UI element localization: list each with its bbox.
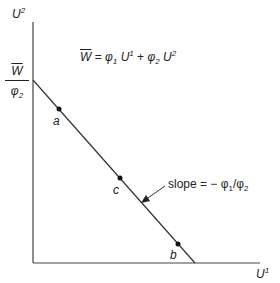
diagram-canvas — [0, 0, 280, 283]
point-a — [57, 107, 62, 112]
point-b — [176, 242, 181, 247]
intercept-label: W φ2 — [5, 64, 29, 98]
point-b-label: b — [170, 249, 177, 261]
intercept-denominator: φ2 — [5, 81, 29, 98]
arrowhead-icon — [141, 195, 150, 203]
y-axis-label: U2 — [12, 8, 25, 20]
equation: W = φ1 U1 + φ2 U2 — [80, 51, 176, 63]
point-a-label: a — [53, 115, 60, 127]
point-c-label: c — [113, 184, 119, 196]
slope-annotation: slope = − φ1/φ2 — [168, 178, 249, 190]
point-c — [118, 176, 123, 181]
intercept-numerator: W — [5, 64, 29, 81]
slope-arrow — [145, 186, 165, 200]
x-axis-label: U1 — [256, 268, 269, 280]
